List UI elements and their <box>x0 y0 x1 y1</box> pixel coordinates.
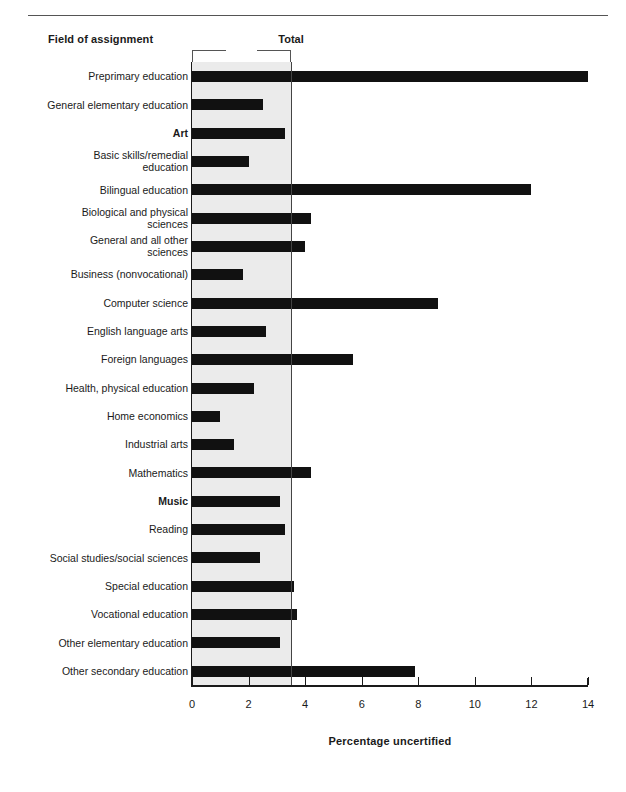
y-axis-label: Industrial arts <box>14 438 188 451</box>
y-axis-label-line: Biological and physical <box>14 206 188 219</box>
y-axis-label-line: sciences <box>14 246 188 259</box>
x-tick-label: 6 <box>347 698 377 710</box>
bar-row <box>192 345 588 373</box>
y-axis-label: Art <box>14 127 188 140</box>
bar-row <box>192 600 588 628</box>
y-axis-label-line: education <box>14 161 188 174</box>
x-tick-label: 12 <box>516 698 546 710</box>
y-axis-category-labels: Preprimary educationGeneral elementary e… <box>14 62 188 685</box>
x-tick-mark <box>305 677 306 685</box>
bar-row <box>192 374 588 402</box>
y-axis-label: Computer science <box>14 297 188 310</box>
bar-row <box>192 487 588 515</box>
y-axis-label-line: Other secondary education <box>14 665 188 678</box>
x-tick-mark <box>192 677 193 685</box>
x-tick-mark <box>249 677 250 685</box>
y-axis-label-line: Foreign languages <box>14 353 188 366</box>
y-axis-label-line: sciences <box>14 218 188 231</box>
plot-area <box>192 62 588 685</box>
x-tick-label: 8 <box>403 698 433 710</box>
field-of-assignment-heading: Field of assignment <box>48 33 153 45</box>
x-tick-label: 0 <box>177 698 207 710</box>
y-axis-label: Foreign languages <box>14 353 188 366</box>
y-axis-label: Other secondary education <box>14 665 188 678</box>
bar <box>192 552 260 563</box>
x-tick-label: 2 <box>234 698 264 710</box>
chart-header-row: Field of assignment Total <box>0 33 626 53</box>
y-axis-label-line: Preprimary education <box>14 70 188 83</box>
y-axis-label-line: English language arts <box>14 325 188 338</box>
bar <box>192 298 438 309</box>
bar-row <box>192 317 588 345</box>
bar-row <box>192 515 588 543</box>
bar-row <box>192 543 588 571</box>
x-tick-mark <box>588 677 589 685</box>
y-axis-label-line: General elementary education <box>14 99 188 112</box>
y-axis-label-line: Basic skills/remedial <box>14 149 188 162</box>
bar <box>192 354 353 365</box>
bar-row <box>192 657 588 685</box>
bar <box>192 637 280 648</box>
bar-row <box>192 147 588 175</box>
bar <box>192 524 285 535</box>
y-axis-label: Special education <box>14 580 188 593</box>
bar <box>192 666 415 677</box>
bar <box>192 439 234 450</box>
bar-row <box>192 628 588 656</box>
y-axis-label: Bilingual education <box>14 184 188 197</box>
bar-row <box>192 260 588 288</box>
bar <box>192 128 285 139</box>
total-reference-line <box>291 62 292 685</box>
bar <box>192 156 249 167</box>
bar <box>192 609 297 620</box>
bar-row <box>192 402 588 430</box>
x-tick-mark <box>531 677 532 685</box>
bar <box>192 383 254 394</box>
bar <box>192 99 263 110</box>
bar-row <box>192 232 588 260</box>
y-axis-label-line: Industrial arts <box>14 438 188 451</box>
y-axis-label-line: Art <box>14 127 188 140</box>
y-axis-label: Social studies/social sciences <box>14 552 188 565</box>
y-axis-label: Basic skills/remedialeducation <box>14 149 188 174</box>
bar <box>192 269 243 280</box>
y-axis-label: English language arts <box>14 325 188 338</box>
bar <box>192 71 588 82</box>
x-axis-ticks: 02468101214 <box>192 685 592 719</box>
x-tick-label: 10 <box>460 698 490 710</box>
y-axis-label-line: Music <box>14 495 188 508</box>
y-axis-label-line: Home economics <box>14 410 188 423</box>
y-axis-label-line: Business (nonvocational) <box>14 268 188 281</box>
bar-row <box>192 175 588 203</box>
bar <box>192 213 311 224</box>
y-axis-label: Business (nonvocational) <box>14 268 188 281</box>
x-axis-title: Percentage uncertified <box>192 735 588 747</box>
y-axis-label: Reading <box>14 523 188 536</box>
total-bracket-right-segment <box>257 50 291 62</box>
y-axis-label-line: Computer science <box>14 297 188 310</box>
total-heading: Total <box>228 33 354 45</box>
bar <box>192 581 294 592</box>
x-tick-mark <box>362 677 363 685</box>
y-axis-label: Mathematics <box>14 467 188 480</box>
y-axis-label-line: Health, physical education <box>14 382 188 395</box>
y-axis-label-line: Bilingual education <box>14 184 188 197</box>
y-axis-label: General and all othersciences <box>14 234 188 259</box>
y-axis-label-line: Reading <box>14 523 188 536</box>
y-axis-label-line: Social studies/social sciences <box>14 552 188 565</box>
bar <box>192 241 305 252</box>
bar-row <box>192 430 588 458</box>
y-axis-label: Vocational education <box>14 608 188 621</box>
y-axis-label: Preprimary education <box>14 70 188 83</box>
bar-row <box>192 289 588 317</box>
bar <box>192 467 311 478</box>
bar-row <box>192 119 588 147</box>
bar-row <box>192 204 588 232</box>
bar <box>192 411 220 422</box>
bar-row <box>192 62 588 90</box>
bar-row <box>192 90 588 118</box>
y-axis-label: Biological and physicalsciences <box>14 206 188 231</box>
x-tick-label: 14 <box>573 698 603 710</box>
x-tick-label: 4 <box>290 698 320 710</box>
y-axis-label: Music <box>14 495 188 508</box>
